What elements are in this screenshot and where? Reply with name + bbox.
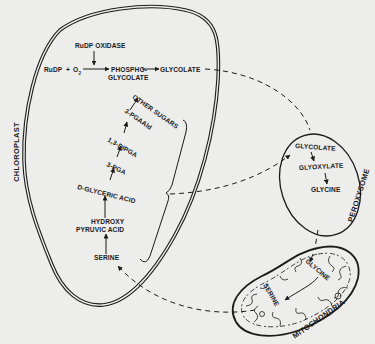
glycolate-peroxysome: GLYCOLATE [295,142,336,152]
chloroplast-label: CHLOROPLAST [12,122,21,182]
hydroxy-label-line1: HYDROXY [91,218,125,225]
calvin-chain: OTHER SUGARS 3-PGAAld 1,3-DIPGA 3-PGA D-… [76,93,187,262]
peroxysome-label: PEROXYSOME [346,167,372,223]
rudp-label: RuDP [44,66,63,73]
phosphoglycolate-line1: PHOSPHO- [111,66,147,73]
phosphoglycolate-line2: GLYCOLATE [108,74,149,81]
glycolate-chloroplast: GLYCOLATE [160,66,201,73]
oxygen-label: O [73,66,78,73]
glyoxylate-label: GLYOXYLATE [299,162,344,171]
mitochondrion [233,247,359,336]
enzyme-rudp-oxidase: RuDP OXIDASE [75,42,126,49]
hydroxy-label-line2: PYRUVIC ACID [76,226,124,233]
glycine-mitochondria: GLYCINE [304,257,331,282]
glycine-peroxysome: GLYCINE [311,186,341,193]
glyceric-acid-label: D-GLYCERIC ACID [77,183,137,204]
mitochondria-label: MITOCHONDRIA [291,297,347,340]
serine-chloroplast: SERINE [94,254,120,261]
serine-mitochondria: SERINE [262,282,281,308]
plus-sign: + [66,66,70,73]
photorespiration-diagram: CHLOROPLAST PEROXYSOME MITOCHONDRIA RuDP… [0,0,375,344]
oxygen-subscript: 2 [79,71,82,76]
chloroplast-membrane [24,7,219,306]
pga-label: 3-PGA [106,161,128,176]
other-sugars-label: OTHER SUGARS [131,93,180,130]
dipga-label: 1,3-DIPGA [106,136,139,160]
